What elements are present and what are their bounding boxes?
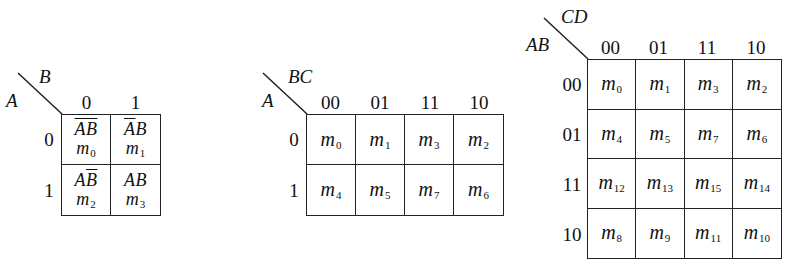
row-header: 01: [559, 125, 585, 144]
minterm-label: m10: [744, 222, 770, 244]
kmap-cell-m12: m12: [588, 159, 636, 209]
minterm-label: m3: [698, 73, 719, 95]
minterm-label: m11: [695, 222, 721, 244]
row-header: 10: [559, 225, 585, 244]
kmap-cell-m5: m5: [636, 110, 684, 160]
kmap-cell-m11: m11: [685, 209, 733, 259]
minterm-label: m9: [649, 222, 670, 244]
column-header: 10: [731, 38, 781, 57]
minterm-label: m12: [598, 172, 624, 194]
kmap-cell-m0: m0: [588, 60, 636, 110]
kmap-cell-m14: m14: [733, 159, 781, 209]
kmap-cell-m8: m8: [588, 209, 636, 259]
kmap-cell-m1: m1: [636, 60, 684, 110]
minterm-label: m4: [601, 123, 622, 145]
kmap-cell-m9: m9: [636, 209, 684, 259]
column-header: 01: [634, 38, 683, 57]
kmap-cell-m10: m10: [733, 209, 781, 259]
minterm-label: m1: [649, 73, 670, 95]
column-variable-label: CD: [561, 7, 587, 26]
kmap-cell-m13: m13: [636, 159, 684, 209]
kmap-cell-m7: m7: [685, 110, 733, 160]
row-variable-label: AB: [526, 35, 549, 54]
minterm-label: m6: [746, 123, 767, 145]
row-header: 11: [559, 175, 585, 194]
kmap-cell-m4: m4: [588, 110, 636, 160]
kmap-cell-m15: m15: [685, 159, 733, 209]
minterm-label: m15: [695, 172, 721, 194]
column-header: 11: [683, 38, 731, 57]
kmap-grid: m0 m1 m3 m2 m4 m5 m7 m6 m12 m13 m15 m14 …: [587, 59, 782, 259]
minterm-label: m8: [601, 222, 622, 244]
minterm-label: m5: [649, 123, 670, 145]
row-header: 00: [559, 75, 585, 94]
minterm-label: m13: [647, 172, 673, 194]
column-header: 00: [587, 38, 634, 57]
kmap-four-variable: CD AB 00 01 11 10 00 01 11 10 m0 m1 m3 m…: [0, 0, 786, 271]
minterm-label: m14: [744, 172, 770, 194]
minterm-label: m0: [601, 73, 622, 95]
minterm-label: m2: [746, 73, 767, 95]
kmap-cell-m2: m2: [733, 60, 781, 110]
kmap-cell-m6: m6: [733, 110, 781, 160]
minterm-label: m7: [698, 123, 719, 145]
kmap-cell-m3: m3: [685, 60, 733, 110]
